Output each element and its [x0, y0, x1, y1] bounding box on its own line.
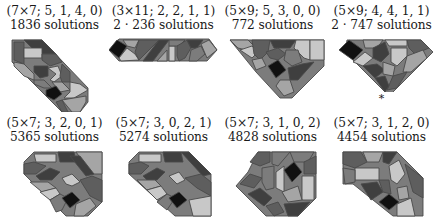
panel-params: (5×9; 5, 3, 0, 0) — [218, 4, 327, 18]
panel-solution-count: 5274 solutions — [109, 130, 218, 144]
panel-params: (7×7; 5, 1, 4, 0) — [0, 4, 109, 18]
tiling-diagram — [109, 36, 218, 112]
panel-4: (5×9; 4, 4, 1, 1) 2 · 747 solutions * — [327, 0, 436, 112]
panel-params: (5×7; 3, 1, 0, 2) — [218, 116, 327, 130]
panel-solution-count: 5365 solutions — [0, 130, 109, 144]
panel-solution-count: 2 · 236 solutions — [109, 18, 218, 32]
panel-solution-count: 4454 solutions — [327, 130, 436, 144]
panel-solution-count: 1836 solutions — [0, 18, 109, 32]
panel-6: (5×7; 3, 0, 2, 1) 5274 solutions — [109, 112, 218, 224]
tiling-diagram — [0, 148, 109, 224]
panel-params: (3×11; 2, 2, 1, 1) — [109, 4, 218, 18]
panel-5: (5×7; 3, 2, 0, 1) 5365 solutions — [0, 112, 109, 224]
tiling-diagram — [218, 36, 327, 112]
panel-3: (5×9; 5, 3, 0, 0) 772 solutions — [218, 0, 327, 112]
tiling-diagram — [218, 148, 327, 224]
panel-params: (5×9; 4, 4, 1, 1) — [327, 4, 436, 18]
footnote-marker: * — [327, 92, 436, 105]
panel-params: (5×7; 3, 0, 2, 1) — [109, 116, 218, 130]
panel-solution-count: 772 solutions — [218, 18, 327, 32]
panel-solution-count: 4828 solutions — [218, 130, 327, 144]
panel-params: (5×7; 3, 2, 0, 1) — [0, 116, 109, 130]
panel-2: (3×11; 2, 2, 1, 1) 2 · 236 solutions — [109, 0, 218, 112]
panel-solution-count: 2 · 747 solutions — [327, 18, 436, 32]
panel-7: (5×7; 3, 1, 0, 2) 4828 solutions — [218, 112, 327, 224]
panel-8: (5×7; 3, 1, 2, 0) 4454 solutions — [327, 112, 436, 224]
panel-1: (7×7; 5, 1, 4, 0) 1836 solutions — [0, 0, 109, 112]
tiling-diagram — [0, 36, 109, 112]
tiling-diagram — [109, 148, 218, 224]
tiling-diagram — [327, 148, 436, 224]
panel-params: (5×7; 3, 1, 2, 0) — [327, 116, 436, 130]
